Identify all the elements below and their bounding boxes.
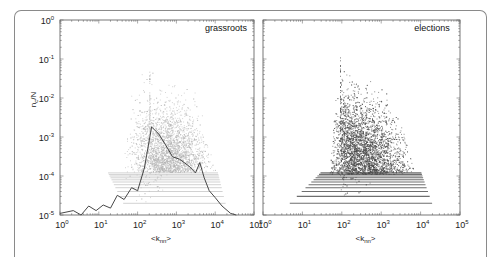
panel-elections: 100101102103104105 elections <knn> — [258, 20, 469, 244]
tick-label: 10-3 — [39, 132, 55, 143]
y-tick-labels: 10010-110-210-310-410-5 — [39, 15, 55, 221]
horizontal-bands — [290, 173, 432, 203]
tick-label: 104 — [211, 219, 225, 230]
tick-label: 10-5 — [39, 210, 55, 221]
tick-label: 100 — [41, 15, 55, 26]
axis-ticks — [60, 20, 254, 215]
chart-canvas: 100101102103104105 10010-110-210-310-410… — [0, 0, 494, 257]
panel-grassroots: 100101102103104105 10010-110-210-310-410… — [29, 15, 263, 244]
panel-title: elections — [414, 23, 450, 33]
x-axis-label: <knn> — [151, 234, 171, 244]
tick-label: 105 — [455, 219, 469, 230]
tick-label: 101 — [94, 219, 108, 230]
x-tick-labels: 100101102103104105 — [258, 219, 469, 230]
x-axis-label: <knn> — [355, 234, 375, 244]
panel-title: grassroots — [205, 23, 248, 33]
tick-label: 10-4 — [39, 171, 55, 182]
y-axis-label: nc/N — [29, 92, 39, 108]
tick-label: 10-2 — [39, 93, 55, 104]
tick-label: 101 — [298, 219, 312, 230]
tick-label: 10-1 — [39, 54, 55, 65]
tick-label: 102 — [337, 219, 351, 230]
tick-label: 100 — [55, 219, 69, 230]
scatter-points — [125, 72, 216, 203]
tick-label: 103 — [377, 219, 391, 230]
plot-area — [60, 20, 254, 215]
tick-label: 100 — [258, 219, 272, 230]
x-tick-labels: 100101102103104105 — [55, 219, 263, 230]
tick-label: 102 — [133, 219, 147, 230]
tick-label: 103 — [172, 219, 186, 230]
tick-label: 104 — [416, 219, 430, 230]
